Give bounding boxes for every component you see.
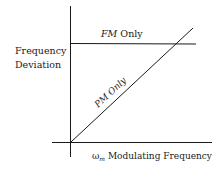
y-axis-label-line1: Frequency bbox=[15, 45, 67, 56]
fm-only-label: FM Only bbox=[100, 28, 143, 39]
diagram-canvas: FM Only PM Only Frequency Deviation ωm M… bbox=[0, 0, 224, 170]
pm-only-line bbox=[71, 28, 193, 142]
x-axis-label: ωm Modulating Frequency bbox=[92, 151, 213, 162]
fm-only-line bbox=[71, 44, 196, 45]
y-axis-label-line2: Deviation bbox=[15, 59, 61, 70]
